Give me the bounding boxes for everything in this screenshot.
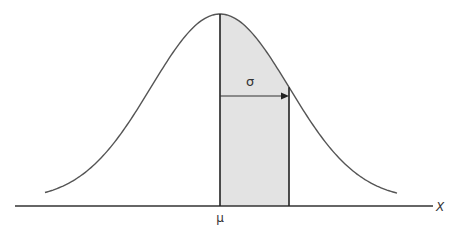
x-axis-label: X (435, 200, 445, 214)
sigma-shaded-region (220, 14, 289, 206)
sigma-label: σ (246, 74, 254, 89)
normal-curve-diagram: σ μ X (0, 0, 455, 238)
mean-label: μ (216, 211, 224, 225)
